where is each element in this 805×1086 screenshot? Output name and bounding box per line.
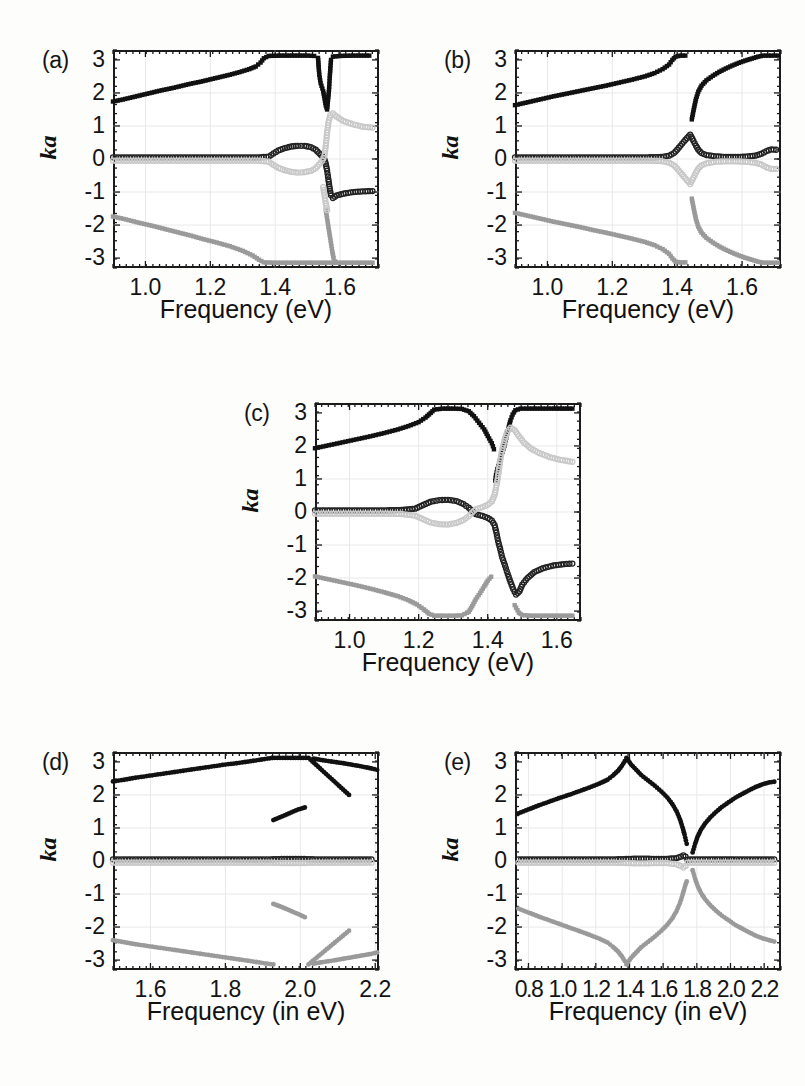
y-tick-label-e-1: 2 (463, 781, 507, 808)
y-tick-label-e-2: 1 (463, 814, 507, 841)
plot-frame-e (515, 752, 781, 970)
y-tick-label-e-5: -2 (463, 913, 507, 940)
y-tick-label-e-0: 3 (463, 748, 507, 775)
y-tick-label-e-4: -1 (463, 880, 507, 907)
panel-e: (e)kaFrequency (in eV)3210-1-2-30.81.01.… (0, 0, 805, 1086)
y-tick-label-e-6: -3 (463, 946, 507, 973)
y-axis-label-e: ka (437, 836, 464, 864)
x-tick-label-e-7: 2.2 (743, 976, 785, 1003)
y-tick-label-e-3: 0 (463, 847, 507, 874)
figure-root: (a)kaFrequency (eV)3210-1-2-31.01.21.41.… (0, 0, 805, 1086)
